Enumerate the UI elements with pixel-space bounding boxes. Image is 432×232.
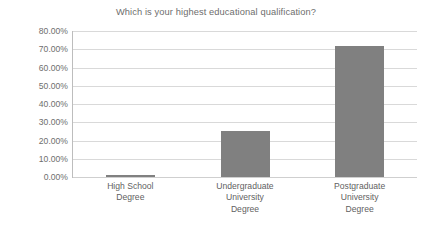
x-axis-label-line: University (188, 192, 303, 203)
x-axis-category-labels: High SchoolDegreeUndergraduateUniversity… (73, 181, 417, 231)
x-axis-label-line: Degree (188, 204, 303, 215)
gridline (73, 177, 417, 178)
x-axis-label-line: University (302, 192, 417, 203)
x-axis-label-line: High School (73, 181, 188, 192)
plot-area (73, 31, 417, 177)
bar-chart: Which is your highest educational qualif… (0, 0, 432, 232)
chart-title: Which is your highest educational qualif… (0, 7, 432, 17)
y-axis-tick-label: 40.00% (4, 99, 68, 109)
y-axis-tick-label: 60.00% (4, 63, 68, 73)
x-axis-label-line: Degree (73, 192, 188, 203)
y-axis-tick-label: 30.00% (4, 117, 68, 127)
x-axis-category-label: PostgraduateUniversityDegree (302, 181, 417, 215)
y-axis-tick-label: 0.00% (4, 172, 68, 182)
y-axis-tick-label: 70.00% (4, 44, 68, 54)
y-axis-tick-label: 50.00% (4, 81, 68, 91)
x-axis-label-line: Undergraduate (188, 181, 303, 192)
x-axis-category-label: High SchoolDegree (73, 181, 188, 204)
y-axis-tick-label: 10.00% (4, 154, 68, 164)
y-axis-tick-label: 20.00% (4, 136, 68, 146)
bar (221, 131, 270, 177)
bar (335, 46, 384, 177)
x-axis-label-line: Postgraduate (302, 181, 417, 192)
y-axis-tick-label: 80.00% (4, 26, 68, 36)
x-axis-category-label: UndergraduateUniversityDegree (188, 181, 303, 215)
y-axis-tick-labels: 0.00%10.00%20.00%30.00%40.00%50.00%60.00… (0, 31, 68, 177)
x-axis-label-line: Degree (302, 204, 417, 215)
bar (106, 175, 155, 177)
gridline (73, 31, 417, 32)
